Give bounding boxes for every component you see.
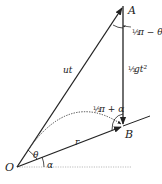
label-theta: θ — [33, 150, 39, 160]
point-O-label: O — [5, 161, 14, 174]
label-angle-B: π + α — [98, 104, 124, 114]
angle-A-pointer — [123, 26, 131, 27]
incline-line — [123, 116, 150, 126]
angle-arc-A — [113, 25, 123, 28]
point-A-label: A — [127, 4, 136, 17]
label-alpha: α — [47, 160, 53, 170]
label-r: r — [75, 137, 80, 147]
label-gt2: gt² — [134, 64, 147, 74]
label-angle-A: π − θ — [137, 27, 162, 37]
vector-r — [17, 127, 121, 167]
angle-arc-B — [112, 114, 123, 130]
point-B-label: B — [124, 128, 133, 141]
label-ut: ut — [63, 65, 73, 75]
angle-arc-alpha — [42, 157, 44, 167]
vector-diagram: A B O ut r ½ gt² ½ π − θ ½ π + α θ α — [0, 0, 162, 184]
